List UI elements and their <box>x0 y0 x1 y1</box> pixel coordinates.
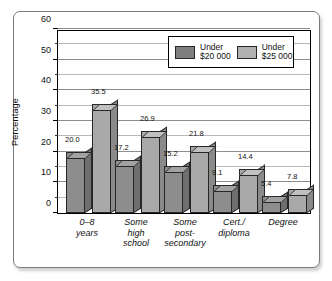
y-axis-tick-label: 20 <box>25 138 51 147</box>
x-axis-category-label: Degree <box>252 217 314 228</box>
y-axis-tick <box>55 197 58 198</box>
bar-front-face <box>92 104 111 213</box>
y-axis-tick-label: 50 <box>25 46 51 55</box>
legend-label: Under $25 000 <box>262 43 293 62</box>
bar-value-label: 14.4 <box>238 153 253 161</box>
bar-value-label: 5.4 <box>261 180 271 188</box>
legend-item: Under $20 000 <box>175 43 231 62</box>
legend-swatch <box>237 46 257 59</box>
legend-swatch <box>175 46 195 59</box>
bar-value-label: 9.1 <box>212 169 222 177</box>
y-axis-tick <box>55 74 58 75</box>
y-axis-tick <box>53 28 58 29</box>
y-axis-tick-label: 30 <box>25 107 51 116</box>
y-axis-tick <box>53 151 58 152</box>
legend-label: Under $20 000 <box>200 43 231 62</box>
y-axis-tick <box>53 89 58 90</box>
y-axis-tick <box>55 135 58 136</box>
bar-value-label: 17.2 <box>114 144 129 152</box>
y-axis-tick <box>55 166 58 167</box>
bar-front-face <box>190 146 209 213</box>
bar <box>92 104 111 213</box>
y-axis-title: Percentage <box>9 30 21 214</box>
bar <box>288 189 307 213</box>
y-axis-tick <box>53 181 58 182</box>
bar <box>141 131 160 213</box>
bar-front-face <box>115 160 134 213</box>
bar-front-face <box>141 131 160 213</box>
y-axis-tick <box>53 120 58 121</box>
bar <box>190 146 209 213</box>
gridline <box>58 28 310 29</box>
bar-value-label: 7.8 <box>287 173 297 181</box>
y-axis-title-text: Percentage <box>10 98 20 146</box>
bar-value-label: 35.5 <box>91 88 106 96</box>
bar <box>262 196 281 213</box>
y-axis-tick <box>53 59 58 60</box>
bar-value-label: 26.9 <box>140 115 155 123</box>
y-axis-tick-label: 60 <box>25 15 51 24</box>
chart-figure: Percentage 0102030405060 20.035.517.226.… <box>0 0 332 281</box>
bar-value-label: 15.2 <box>163 150 178 158</box>
bar-value-label: 20.0 <box>65 136 80 144</box>
y-axis-tick <box>53 212 58 213</box>
bar-front-face <box>66 152 85 213</box>
bar <box>115 160 134 213</box>
y-axis-tick <box>55 43 58 44</box>
bar <box>66 152 85 213</box>
bar <box>164 166 183 213</box>
gridline <box>58 74 310 75</box>
y-axis-tick-label: 0 <box>25 199 51 208</box>
bar-value-label: 21.8 <box>189 130 204 138</box>
y-axis-tick <box>55 105 58 106</box>
legend-item: Under $25 000 <box>237 43 293 62</box>
bar <box>213 185 232 213</box>
y-axis-tick-label: 10 <box>25 168 51 177</box>
chart-legend: Under $20 000Under $25 000 <box>168 36 294 68</box>
bar <box>239 169 258 213</box>
y-axis-tick-label: 40 <box>25 76 51 85</box>
bar-front-face <box>164 166 183 213</box>
